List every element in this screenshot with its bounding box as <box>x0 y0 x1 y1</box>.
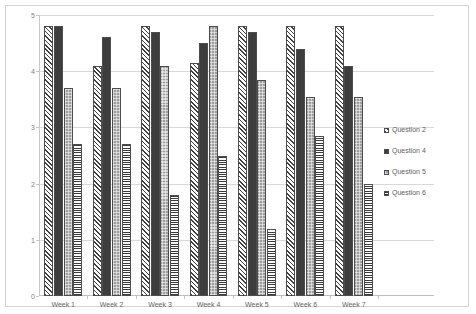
y-axis-tick-label: 3 <box>31 124 35 131</box>
bar-group: Week 3 <box>136 15 184 296</box>
legend-item[interactable]: Question 4 <box>384 147 464 155</box>
x-tick-mark <box>136 296 137 299</box>
bar[interactable] <box>170 195 179 296</box>
y-axis-tick-label: 1 <box>31 236 35 243</box>
legend-swatch-icon <box>384 191 389 196</box>
chart-legend: Question 2Question 4Question 5Question 6 <box>384 126 464 210</box>
legend-item-label: Question 6 <box>392 189 426 197</box>
bar[interactable] <box>102 37 111 296</box>
bar[interactable] <box>64 88 73 296</box>
legend-swatch-icon <box>384 149 389 154</box>
x-axis-tick-label: Week 6 <box>281 301 329 309</box>
legend-item[interactable]: Question 2 <box>384 126 464 134</box>
bar-groups: Week 1Week 2Week 3Week 4Week 5Week 6Week… <box>39 15 434 296</box>
bar-group: Week 2 <box>87 15 135 296</box>
bar-group: Week 4 <box>184 15 232 296</box>
bar[interactable] <box>354 97 363 297</box>
bar[interactable] <box>238 26 247 296</box>
bar[interactable] <box>306 97 315 297</box>
legend-item-label: Question 4 <box>392 147 426 155</box>
bar[interactable] <box>296 49 305 296</box>
bar-group: Week 1 <box>39 15 87 296</box>
legend-item[interactable]: Question 6 <box>384 189 464 197</box>
y-axis-tick-label: 0 <box>31 293 35 300</box>
bar[interactable] <box>151 32 160 296</box>
x-axis-tick-label: Week 1 <box>39 301 87 309</box>
bar[interactable] <box>267 229 276 296</box>
legend-item-label: Question 5 <box>392 168 426 176</box>
bar[interactable] <box>335 26 344 296</box>
legend-item[interactable]: Question 5 <box>384 168 464 176</box>
x-axis-tick-label: Week 4 <box>184 301 232 309</box>
bar[interactable] <box>73 144 82 296</box>
bar[interactable] <box>112 88 121 296</box>
bar[interactable] <box>199 43 208 296</box>
x-tick-mark <box>233 296 234 299</box>
x-axis-tick-label: Week 5 <box>233 301 281 309</box>
bar[interactable] <box>286 26 295 296</box>
x-axis-tick-label: Week 3 <box>136 301 184 309</box>
bar[interactable] <box>257 80 266 296</box>
y-axis-tick-label: 2 <box>31 180 35 187</box>
x-tick-mark <box>184 296 185 299</box>
bar[interactable] <box>141 26 150 296</box>
bar[interactable] <box>160 66 169 296</box>
bar[interactable] <box>315 136 324 296</box>
bar[interactable] <box>344 66 353 296</box>
legend-swatch-icon <box>384 128 389 133</box>
bar[interactable] <box>93 66 102 296</box>
bar[interactable] <box>54 26 63 296</box>
bar[interactable] <box>122 144 131 296</box>
y-axis-tick-label: 4 <box>31 68 35 75</box>
bar[interactable] <box>364 184 373 296</box>
x-axis-tick-label: Week 7 <box>330 301 378 309</box>
x-tick-mark <box>330 296 331 299</box>
x-tick-mark <box>87 296 88 299</box>
bar[interactable] <box>209 26 218 296</box>
legend-swatch-icon <box>384 170 389 175</box>
x-tick-mark <box>281 296 282 299</box>
chart-frame: 012345 Week 1Week 2Week 3Week 4Week 5Wee… <box>5 5 469 307</box>
bar[interactable] <box>218 156 227 297</box>
y-axis-tick-label: 5 <box>31 12 35 19</box>
bar-group: Week 6 <box>281 15 329 296</box>
legend-item-label: Question 2 <box>392 126 426 134</box>
bar-group: Week 7 <box>330 15 378 296</box>
bar[interactable] <box>248 32 257 296</box>
x-tick-mark <box>378 296 379 299</box>
plot-area: 012345 Week 1Week 2Week 3Week 4Week 5Wee… <box>39 15 434 296</box>
bar[interactable] <box>190 63 199 296</box>
bar-group: Week 5 <box>233 15 281 296</box>
bar[interactable] <box>44 26 53 296</box>
y-tick-mark <box>36 296 39 297</box>
x-axis-tick-label: Week 2 <box>87 301 135 309</box>
